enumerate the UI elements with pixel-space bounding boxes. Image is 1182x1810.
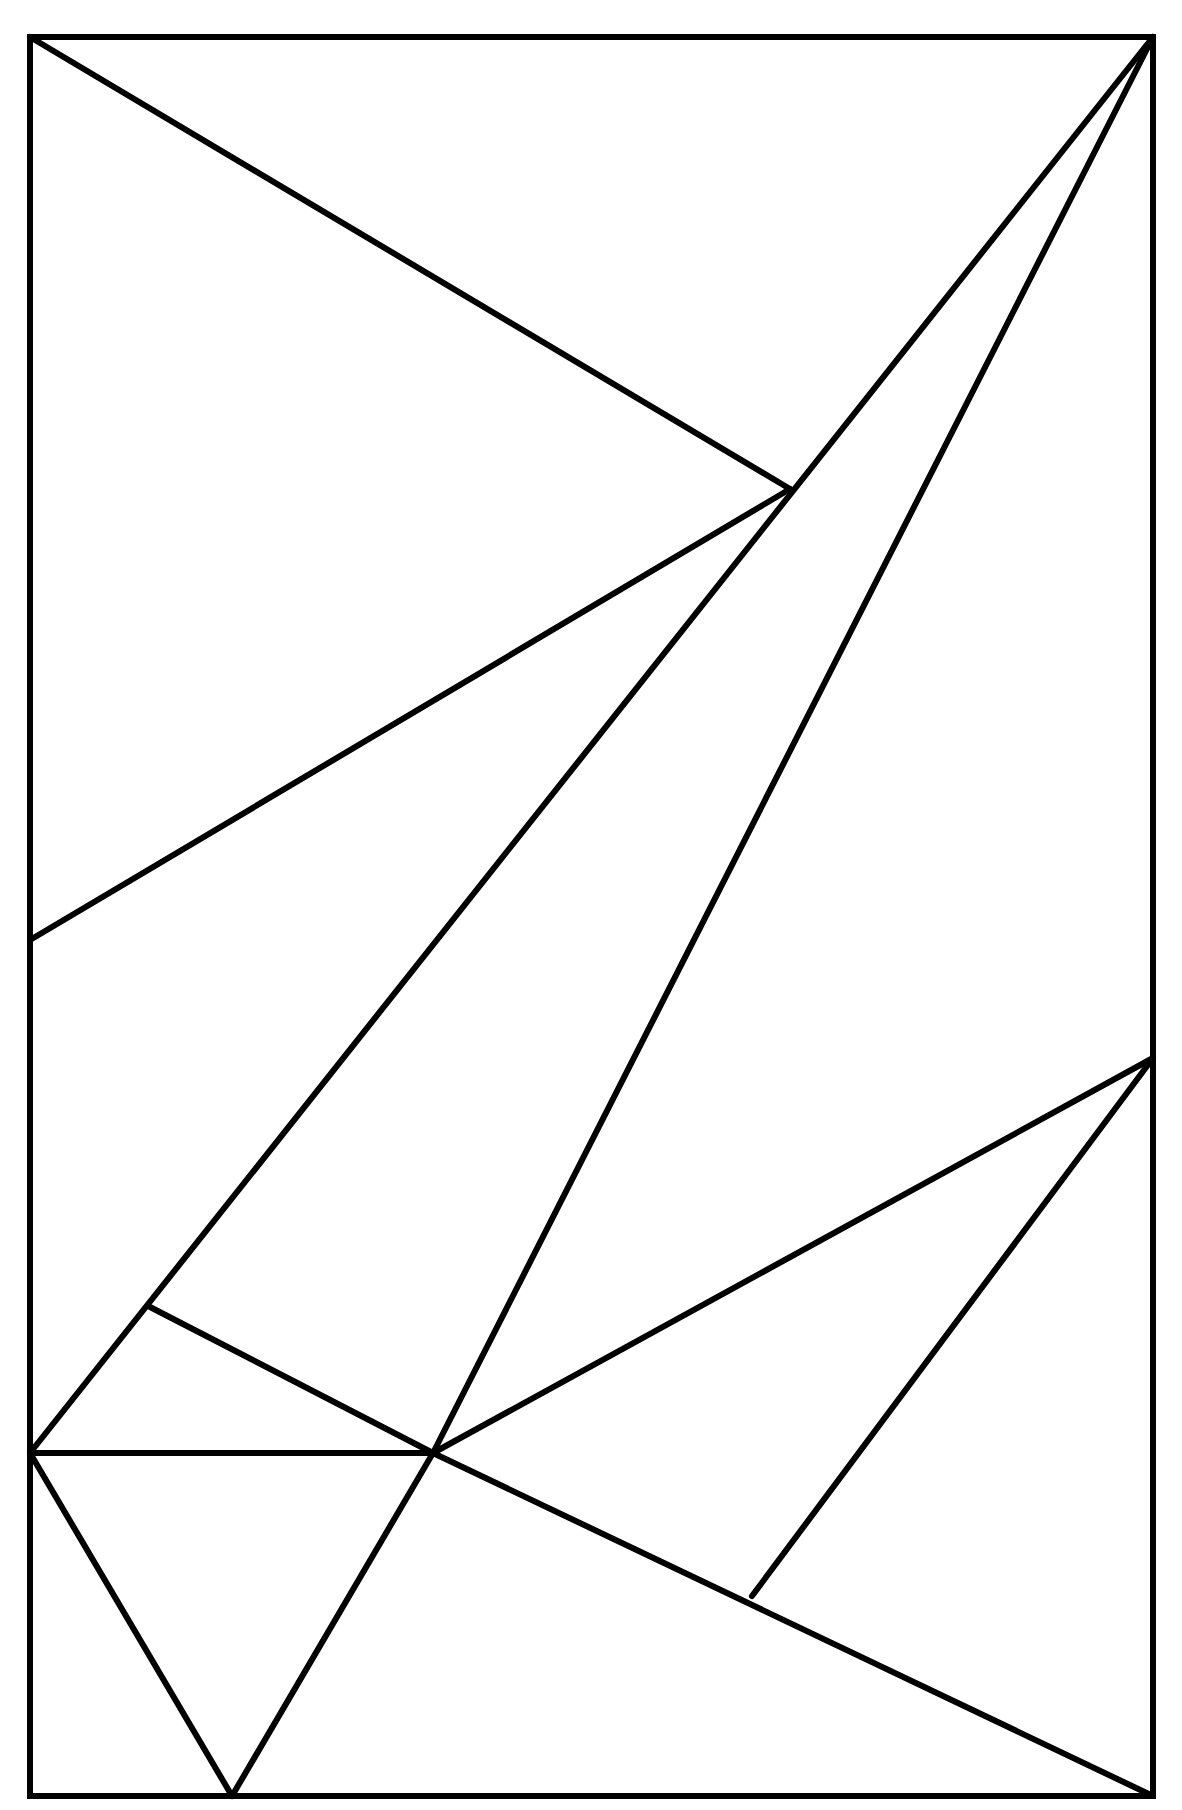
geometric-diagram bbox=[0, 0, 1182, 1810]
segment-K-B bbox=[30, 1453, 232, 1796]
outer-rectangle bbox=[30, 37, 1153, 1796]
segment-R-M bbox=[752, 1058, 1153, 1596]
line-segments bbox=[30, 37, 1153, 1796]
segment-TL-P bbox=[30, 37, 790, 489]
segment-TR-K bbox=[30, 37, 1153, 1453]
segment-Q-C bbox=[150, 1307, 433, 1453]
segment-B-C bbox=[232, 1453, 433, 1796]
segment-C-BR bbox=[433, 1453, 1153, 1796]
segment-C-R bbox=[433, 1058, 1153, 1453]
segment-P-L bbox=[30, 489, 790, 940]
segment-TR-C bbox=[433, 37, 1153, 1453]
